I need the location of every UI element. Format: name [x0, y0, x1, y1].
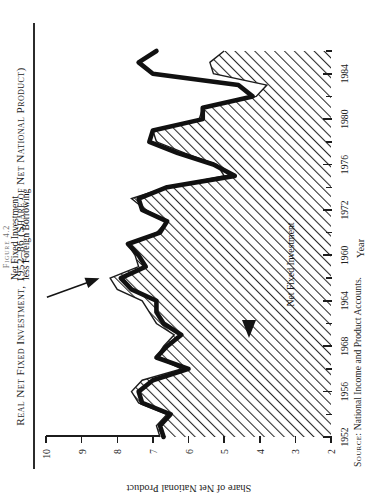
y-tick [117, 436, 119, 443]
x-tick-label: 1984 [339, 64, 350, 83]
x-tick-major [323, 391, 332, 393]
y-tick [295, 436, 297, 443]
y-tick [259, 436, 261, 443]
y-tick-label: 5 [219, 449, 230, 471]
figure: Figure 4.2 Real Net Fixed Investment, 19… [0, 0, 389, 493]
rotated-figure-host: Figure 4.2 Real Net Fixed Investment, 19… [0, 0, 389, 493]
x-tick-minor [326, 187, 332, 188]
x-tick-major [323, 118, 332, 120]
x-tick-label: 1956 [339, 382, 350, 401]
x-tick-minor [326, 96, 332, 97]
net-fixed-investment-area [110, 51, 331, 437]
x-tick-label: 1964 [339, 291, 350, 310]
y-tick-label: 10 [41, 449, 52, 471]
annotation-arrow-net-fixed-investment [238, 307, 260, 341]
source-note: Source: National Income and Product Acco… [352, 277, 363, 467]
y-tick-label: 3 [290, 449, 301, 471]
y-tick-label: 2 [326, 449, 337, 471]
x-tick-major [323, 73, 332, 75]
x-tick-label: 1968 [339, 337, 350, 356]
x-tick-minor [326, 368, 332, 369]
source-text: National Income and Product Accounts. [352, 277, 363, 430]
y-tick-label: 7 [147, 449, 158, 471]
x-tick-major [323, 164, 332, 166]
x-tick-major [323, 300, 332, 302]
anno1-line2: less Foreign Borrowing [21, 189, 32, 281]
x-tick-major [323, 209, 332, 211]
y-tick [81, 436, 83, 443]
x-tick-minor [326, 323, 332, 324]
series-label-less-foreign-borrowing: Net Fixed Investment less Foreign Borrow… [10, 189, 32, 281]
x-tick-label: 1960 [339, 246, 350, 265]
x-tick-minor [326, 277, 332, 278]
x-tick-major [323, 345, 332, 347]
x-tick-label: 1980 [339, 110, 350, 129]
x-tick-label: 1952 [339, 427, 350, 446]
y-tick-label: 9 [76, 449, 87, 471]
x-tick-major [323, 254, 332, 256]
x-tick-minor [326, 50, 332, 51]
x-tick-minor [326, 232, 332, 233]
x-tick-label: 1972 [339, 200, 350, 219]
x-axis-title: Year [355, 239, 366, 258]
title-rule [33, 23, 35, 469]
y-tick [45, 436, 47, 443]
y-tick-label: 6 [183, 449, 194, 471]
y-axis-title: Share of Net National Product [126, 483, 251, 493]
y-tick-label: 8 [112, 449, 123, 471]
y-tick-label: 4 [254, 449, 265, 471]
x-tick-minor [326, 141, 332, 142]
series-label-net-fixed-investment: Net Fixed Investment [285, 223, 296, 307]
y-tick [188, 436, 190, 443]
y-tick [330, 436, 332, 443]
y-tick [152, 436, 154, 443]
x-tick-minor [326, 414, 332, 415]
y-tick [223, 436, 225, 443]
x-tick-label: 1976 [339, 155, 350, 174]
source-prefix: Source: [352, 433, 363, 467]
